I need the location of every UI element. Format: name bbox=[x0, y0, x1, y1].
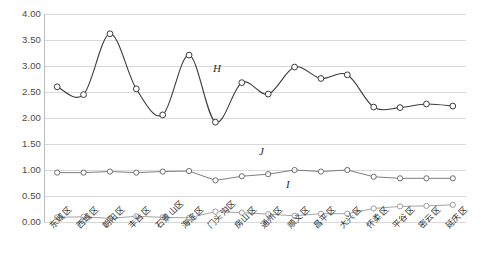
data-point-marker bbox=[55, 170, 60, 175]
series-J bbox=[55, 167, 456, 183]
data-point-marker bbox=[424, 203, 429, 208]
data-point-marker bbox=[345, 167, 350, 172]
data-point-marker bbox=[213, 119, 219, 125]
data-point-marker bbox=[133, 86, 139, 92]
data-point-marker bbox=[344, 72, 350, 78]
data-point-marker bbox=[186, 52, 192, 58]
series-label-i: I bbox=[286, 178, 290, 190]
data-point-marker bbox=[239, 174, 244, 179]
data-point-marker bbox=[107, 169, 112, 174]
data-point-marker bbox=[160, 112, 166, 118]
data-point-marker bbox=[397, 204, 402, 209]
series-label-h: H bbox=[213, 62, 221, 74]
data-point-marker bbox=[134, 170, 139, 175]
data-point-marker bbox=[318, 76, 324, 82]
data-point-marker bbox=[266, 172, 271, 177]
series-H bbox=[54, 31, 455, 125]
data-point-marker bbox=[397, 105, 403, 111]
data-point-marker bbox=[318, 169, 323, 174]
data-point-marker bbox=[213, 178, 218, 183]
data-point-marker bbox=[107, 31, 113, 37]
data-point-marker bbox=[424, 101, 430, 107]
x-axis-labels: 东城区西城区朝阳区丰台区石景山区海淀区门头沟区房山区通州区顺义区昌平区大兴区怀柔… bbox=[0, 224, 481, 267]
line-chart: 4.00 3.50 3.00 2.50 2.00 1.50 1.00 0.50 … bbox=[0, 0, 481, 267]
data-point-marker bbox=[186, 168, 191, 173]
data-point-marker bbox=[371, 174, 376, 179]
data-point-marker bbox=[397, 176, 402, 181]
data-point-marker bbox=[81, 92, 87, 98]
data-point-marker bbox=[292, 167, 297, 172]
data-point-marker bbox=[265, 91, 271, 97]
data-point-marker bbox=[81, 170, 86, 175]
data-point-marker bbox=[450, 202, 455, 207]
data-point-marker bbox=[450, 176, 455, 181]
data-point-marker bbox=[54, 84, 60, 90]
data-point-marker bbox=[450, 103, 456, 109]
data-point-marker bbox=[160, 169, 165, 174]
series-line bbox=[57, 170, 453, 180]
data-point-marker bbox=[424, 176, 429, 181]
data-point-marker bbox=[371, 104, 377, 110]
data-point-marker bbox=[239, 80, 245, 86]
series-label-j: J bbox=[259, 145, 264, 157]
data-point-marker bbox=[292, 64, 298, 70]
series-line bbox=[57, 34, 453, 123]
